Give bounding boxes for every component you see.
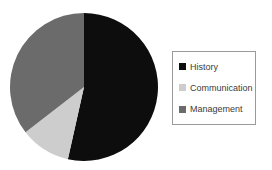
legend-label-history: History — [190, 62, 218, 72]
legend-swatch-history — [179, 63, 186, 70]
legend-item-management[interactable]: Management — [179, 102, 255, 116]
legend-label-management: Management — [190, 104, 243, 114]
legend-label-communication: Communication — [190, 83, 253, 93]
pie-chart-figure: History Communication Management — [0, 0, 272, 170]
legend-swatch-communication — [179, 84, 186, 91]
legend-swatch-management — [179, 106, 186, 113]
chart-legend: History Communication Management — [172, 51, 256, 125]
legend-item-communication[interactable]: Communication — [179, 81, 255, 95]
legend-item-history[interactable]: History — [179, 60, 255, 74]
pie-slice-group — [10, 13, 158, 161]
